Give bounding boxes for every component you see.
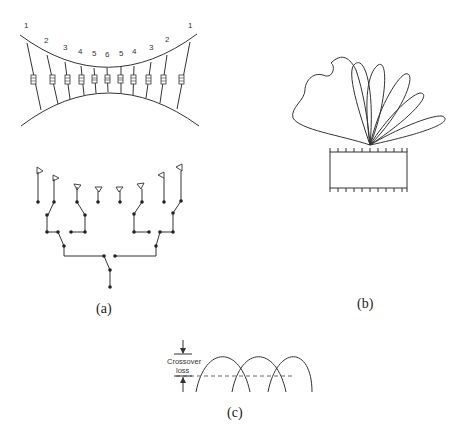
arrow-down-icon xyxy=(180,340,186,354)
array-aperture xyxy=(330,148,407,192)
antenna-icon xyxy=(176,164,182,171)
lens-bottom-arc xyxy=(21,93,199,126)
caption-a: (a) xyxy=(96,301,112,317)
lens-label: 1 xyxy=(24,21,29,30)
beam-arches xyxy=(196,357,312,392)
lens-label: 3 xyxy=(63,43,68,52)
caption-c: (c) xyxy=(227,405,243,421)
radiation-lobes xyxy=(293,57,445,145)
lens-label: 4 xyxy=(78,47,83,56)
beamforming-figure: 1 2 3 4 5 6 5 4 3 2 1 xyxy=(0,0,469,442)
lens-label: 5 xyxy=(92,49,97,58)
arrow-up-icon xyxy=(180,377,186,392)
lens-label: 5 xyxy=(119,49,124,58)
lens-label: 6 xyxy=(105,50,110,59)
lens-label: 4 xyxy=(132,47,137,56)
loss-label: loss xyxy=(176,366,190,375)
lens-label: 3 xyxy=(149,43,154,52)
panel-b-beams: (b) xyxy=(293,57,445,312)
lens-label: 2 xyxy=(44,36,49,45)
lens-label: 1 xyxy=(188,21,193,30)
antenna-icons xyxy=(37,164,182,192)
crossover-label: Crossover xyxy=(167,357,202,366)
lens-label: 2 xyxy=(165,35,170,44)
antenna-icon xyxy=(158,172,164,178)
panel-a-lens: 1 2 3 4 5 6 5 4 3 2 1 xyxy=(20,21,199,126)
antenna-icon xyxy=(137,183,144,189)
panel-a-feed-tree: (a) xyxy=(36,164,183,317)
caption-b: (b) xyxy=(357,296,374,312)
panel-c-crossover: Crossover loss (c) xyxy=(167,340,312,421)
